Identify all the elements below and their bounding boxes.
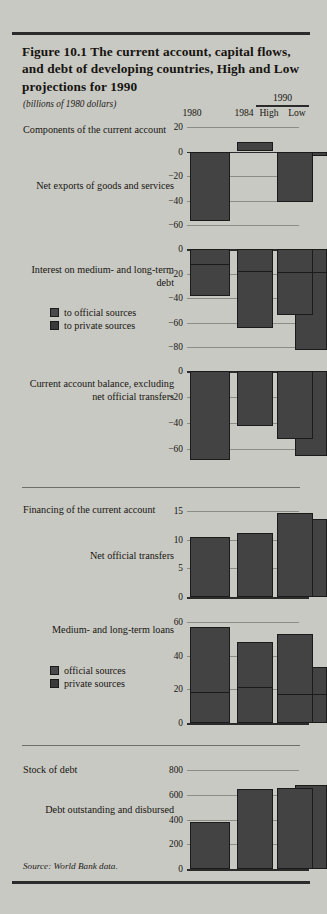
section-divider-1 — [22, 487, 300, 488]
legend-label-private-loans: private sources — [64, 678, 125, 689]
chart-current-account-balance: 0−20−40−60 — [187, 371, 299, 465]
axis-tick-label: 0 — [178, 592, 183, 602]
axis-tick-label: 0 — [178, 864, 183, 874]
axis-tick-label: 5 — [178, 563, 183, 573]
legend-label-official-loans: official sources — [64, 665, 126, 676]
series-label-current-account-balance: Current account balance, excluding net o… — [24, 377, 174, 404]
bar — [277, 152, 313, 202]
series-label-debt-outstanding: Debt outstanding and disbursed — [24, 803, 174, 816]
swatch-icon-official-loans — [50, 666, 59, 675]
section-label-components: Components of the current account — [23, 123, 183, 136]
legend-loans: official sources private sources — [50, 665, 126, 691]
section-label-stock: Stock of debt — [23, 763, 183, 776]
column-group-1990: 1990 — [255, 92, 310, 103]
stack-divider — [278, 694, 312, 695]
stack-divider — [191, 692, 229, 693]
bar — [237, 642, 273, 723]
axis-tick-label: 600 — [169, 790, 183, 800]
figure-title: Figure 10.1 The current account, capital… — [22, 43, 300, 95]
bar — [277, 513, 313, 597]
swatch-icon-official — [50, 308, 59, 317]
stack-divider — [191, 264, 229, 265]
axis-tick-label: −60 — [168, 318, 183, 328]
legend-label-official: to official sources — [64, 307, 136, 318]
section-label-financing: Financing of the current account — [23, 503, 183, 516]
axis-tick-label: −20 — [168, 392, 183, 402]
swatch-icon-private — [50, 321, 59, 330]
figure-panel: Figure 10.1 The current account, capital… — [12, 32, 310, 884]
stack-divider — [238, 687, 272, 688]
axis-tick-label: 20 — [174, 122, 183, 132]
axis-tick-label: 20 — [174, 684, 183, 694]
bar — [237, 371, 273, 426]
chart-medium-long-term-loans: 6040200 — [187, 615, 299, 723]
bar — [190, 371, 230, 460]
stack-divider — [238, 271, 272, 272]
axis-tick-label: −40 — [168, 196, 183, 206]
bar — [277, 371, 313, 439]
bar — [237, 249, 273, 328]
bar — [190, 152, 230, 222]
bar — [237, 142, 273, 152]
axis-tick-label: −60 — [168, 444, 183, 454]
axis-tick-label: 40 — [174, 651, 183, 661]
axis-tick-label: 200 — [169, 839, 183, 849]
legend-interest: to official sources to private sources — [50, 307, 136, 333]
legend-item-private-sources: private sources — [50, 678, 126, 689]
gridline: 800 — [187, 770, 299, 771]
legend-item-official-sources: official sources — [50, 665, 126, 676]
axis-tick-label: 0 — [178, 718, 183, 728]
bar — [237, 789, 273, 869]
figure-units-note: (billions of 1980 dollars) — [23, 99, 116, 109]
legend-label-private: to private sources — [64, 320, 135, 331]
figure-source: Source: World Bank data. — [23, 861, 118, 871]
axis-tick-label: 0 — [178, 147, 183, 157]
gridline: 0 — [187, 869, 309, 871]
axis-tick-label: 0 — [178, 244, 183, 254]
gridline: 0 — [187, 723, 309, 725]
axis-tick-label: −40 — [168, 418, 183, 428]
axis-tick-label: 60 — [174, 617, 183, 627]
axis-tick-label: 10 — [174, 535, 183, 545]
column-header-low: Low — [284, 107, 310, 118]
chart-debt-outstanding: 8006004002000 — [187, 763, 299, 869]
axis-tick-label: −80 — [168, 342, 183, 352]
series-label-net-exports: Net exports of goods and services — [24, 179, 174, 192]
swatch-icon-private-loans — [50, 679, 59, 688]
stack-divider — [278, 272, 312, 273]
series-label-loans: Medium- and long-term loans — [24, 623, 174, 636]
axis-tick-label: 800 — [169, 765, 183, 775]
axis-tick-label: 400 — [169, 815, 183, 825]
chart-interest: 0−20−40−60−80 — [187, 249, 299, 357]
gridline: 15 — [187, 511, 299, 512]
axis-tick-label: 15 — [174, 506, 183, 516]
gridline: −60 — [187, 225, 299, 226]
bar — [277, 788, 313, 869]
column-header-high: High — [255, 107, 283, 118]
axis-tick-label: −60 — [168, 220, 183, 230]
chart-net-official-transfers: 151050 — [187, 505, 299, 597]
bar — [190, 249, 230, 296]
axis-tick-label: −40 — [168, 293, 183, 303]
column-header-1980: 1980 — [174, 107, 210, 118]
legend-item-to-official-sources: to official sources — [50, 307, 136, 318]
bar — [277, 249, 313, 315]
bar — [190, 627, 230, 723]
bar — [277, 634, 313, 723]
chart-net-exports: 200−20−40−60 — [187, 127, 299, 225]
gridline: 60 — [187, 622, 299, 623]
gridline: −80 — [187, 347, 299, 348]
bar — [190, 822, 230, 869]
gridline: 0 — [187, 597, 309, 599]
legend-item-to-private-sources: to private sources — [50, 320, 136, 331]
axis-tick-label: −20 — [168, 171, 183, 181]
bar — [237, 533, 273, 597]
series-label-net-official-transfers: Net official transfers — [24, 549, 174, 562]
axis-tick-label: −20 — [168, 269, 183, 279]
series-label-interest: Interest on medium- and long-term debt — [24, 263, 174, 290]
section-divider-2 — [22, 745, 300, 746]
axis-tick-label: 0 — [178, 366, 183, 376]
gridline: 20 — [187, 127, 299, 128]
bar — [190, 537, 230, 597]
